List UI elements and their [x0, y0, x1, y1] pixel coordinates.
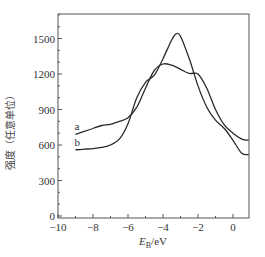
x-axis-label: EB/eV [138, 235, 167, 250]
x-axis-ticks: −10−8−6−4−20 [49, 214, 236, 233]
xps-spectrum-chart: 强度（任意单位） 030060090012001500 −10−8−6−4−20… [0, 0, 265, 257]
y-tick-label: 1500 [33, 33, 56, 45]
plot-curves [76, 33, 249, 155]
x-tick-label: −8 [87, 221, 99, 233]
y-tick-label: 600 [39, 139, 56, 151]
y-tick-label: 900 [39, 104, 56, 116]
x-tick-label: −10 [49, 221, 67, 233]
y-tick-label: 1200 [33, 68, 56, 80]
x-tick-label: −4 [157, 221, 169, 233]
plot-frame [58, 14, 249, 218]
curve-a [76, 64, 249, 141]
x-tick-label: −2 [192, 221, 204, 233]
x-tick-label: −6 [122, 221, 134, 233]
y-axis-label: 强度（任意单位） [4, 90, 16, 170]
x-tick-label: 0 [230, 221, 236, 233]
curve-b [76, 33, 249, 155]
series-label-a: a [75, 120, 80, 132]
series-label-b: b [75, 136, 81, 148]
y-tick-label: 300 [39, 175, 56, 187]
y-axis-label-text: 强度（任意单位） [4, 90, 16, 170]
